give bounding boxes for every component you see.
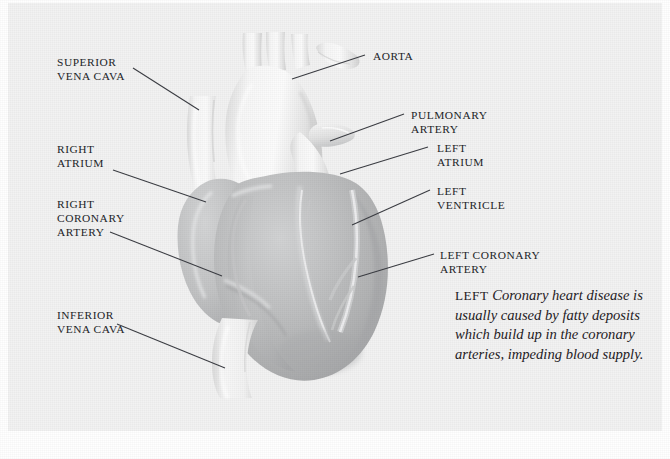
leader-superior-vena-cava [133, 68, 199, 110]
label-inferior-vena-cava: INFERIOR VENA CAVA [57, 308, 125, 336]
caption-block: LEFT Coronary heart disease is usually c… [455, 286, 645, 364]
label-superior-vena-cava: SUPERIOR VENA CAVA [57, 55, 125, 83]
label-aorta: AORTA [373, 49, 413, 63]
caption-lead-word: LEFT [455, 288, 489, 303]
leader-left-atrium [340, 147, 428, 174]
label-left-ventricle: LEFT VENTRICLE [437, 184, 505, 212]
leader-inferior-vena-cava [117, 324, 225, 368]
label-left-atrium: LEFT ATRIUM [437, 141, 484, 169]
label-right-coronary-artery: RIGHT CORONARY ARTERY [57, 197, 125, 240]
label-pulmonary-artery: PULMONARY ARTERY [411, 108, 487, 136]
heart-body-group [178, 172, 388, 381]
figure-root: SUPERIOR VENA CAVA RIGHT ATRIUM RIGHT CO… [0, 0, 670, 459]
label-left-coronary-artery: LEFT CORONARY ARTERY [440, 248, 540, 276]
label-right-atrium: RIGHT ATRIUM [57, 142, 104, 170]
inferior-vena-cava-group [212, 318, 258, 398]
